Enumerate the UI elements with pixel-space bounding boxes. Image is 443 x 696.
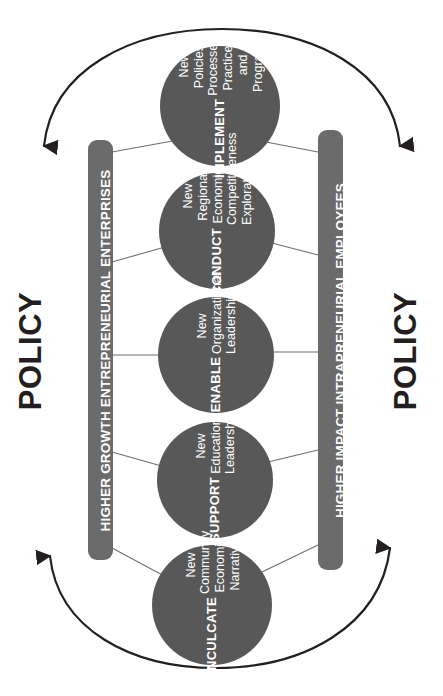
node-support-circle <box>157 422 273 538</box>
connector-right-implement <box>266 142 318 152</box>
node-conduct-circle <box>159 173 275 289</box>
bar-right <box>318 130 343 570</box>
node-inculcate-circle <box>152 545 272 665</box>
connector-left-implement <box>112 140 178 152</box>
policy-cycle-diagram: POLICY POLICY HIGHER GROWTH ENTREPRENEUR… <box>0 0 443 696</box>
connector-right-conduct <box>268 242 318 255</box>
diagram-canvas <box>0 0 443 696</box>
connector-left-support <box>112 452 165 467</box>
bar-left <box>88 140 113 560</box>
connector-right-inculcate <box>262 545 318 572</box>
node-enable-circle <box>158 297 274 413</box>
connector-right-support <box>268 450 318 462</box>
node-implement-circle <box>160 46 280 166</box>
connector-left-inculcate <box>112 548 168 578</box>
